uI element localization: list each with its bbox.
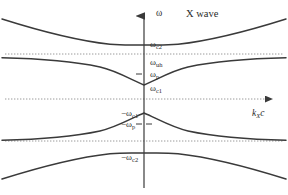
x-wave-dispersion-figure: X wave ω kXc ωc2 ωuh ωp ωc1 −ωc1 −ωp −ωc…	[0, 0, 288, 195]
x-axis-label-tail: c	[260, 108, 264, 118]
level-label-omega-c1: ωc1	[150, 84, 162, 93]
chart-title: X wave	[186, 8, 218, 19]
level-label-neg-omega-c2-base: −ω	[121, 152, 132, 162]
x-axis-label-sub: X	[256, 112, 260, 119]
y-axis-label: ω	[156, 8, 162, 18]
level-label-omega-p-sub: p	[156, 73, 159, 80]
level-label-neg-omega-c1-base: −ω	[121, 108, 132, 118]
level-label-neg-omega-c1-sub: c1	[132, 112, 138, 119]
level-label-neg-omega-p-base: −ω	[121, 119, 132, 129]
level-label-omega-uh: ωuh	[150, 58, 162, 67]
level-label-omega-c2: ωc2	[150, 40, 162, 49]
level-label-omega-c2-sub: c2	[156, 43, 162, 50]
level-label-omega-p: ωp	[150, 70, 159, 79]
dispersion-plot-canvas	[0, 0, 288, 195]
level-label-neg-omega-c2: −ωc2	[121, 153, 138, 162]
level-label-neg-omega-c2-sub: c2	[132, 156, 138, 163]
level-label-omega-c1-sub: c1	[156, 87, 162, 94]
level-label-neg-omega-p: −ωp	[121, 120, 135, 129]
level-label-omega-uh-sub: uh	[156, 61, 163, 68]
level-label-neg-omega-c1: −ωc1	[121, 109, 138, 118]
level-label-neg-omega-p-sub: p	[132, 123, 135, 130]
x-axis-label: kXc	[252, 108, 264, 118]
